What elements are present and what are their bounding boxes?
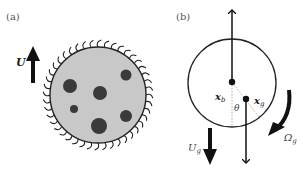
cilium [146, 87, 153, 91]
cilium [60, 131, 67, 135]
panel-b: (b) xb xg θ Ug Ωg [176, 10, 297, 165]
cilium [138, 121, 142, 128]
cilium [69, 47, 72, 55]
cilium [63, 51, 66, 58]
xb-label: xb [214, 91, 226, 104]
cilium [142, 73, 150, 75]
cilium [129, 131, 132, 138]
cilium [124, 50, 131, 54]
omega-label: Ωg [283, 132, 297, 145]
inclusion [91, 118, 107, 134]
panel-a-label: (a) [6, 11, 20, 22]
cilium [104, 41, 109, 47]
cilium [79, 141, 84, 147]
panel-b-label: (b) [176, 11, 190, 22]
cilium [97, 40, 101, 47]
cilium [146, 101, 152, 106]
cilium [50, 121, 58, 124]
cilium [142, 115, 147, 121]
inclusion [63, 79, 77, 93]
cilium [146, 94, 153, 98]
cilium [111, 43, 116, 49]
ug-label: Ug [188, 142, 201, 155]
cilium [53, 63, 57, 70]
xg-label: xg [253, 95, 265, 108]
cilium [66, 135, 73, 139]
cilium [118, 139, 120, 147]
diagram: (a) U (b) xb xg θ [0, 0, 308, 176]
cilium [46, 76, 52, 81]
cilium [90, 40, 94, 47]
inclusion [93, 86, 107, 100]
cilium [134, 60, 141, 63]
cilium [103, 143, 107, 150]
cilium [110, 141, 113, 149]
cilium [54, 126, 61, 129]
velocity-label: U [16, 56, 27, 69]
inclusion [70, 105, 78, 113]
cilium [83, 41, 86, 49]
panel-a: (a) U [6, 11, 153, 150]
cilium [47, 115, 55, 117]
cilium [76, 44, 78, 52]
cilium [124, 135, 127, 143]
cilium [118, 46, 124, 51]
cilium [134, 126, 138, 133]
cilium [44, 107, 52, 110]
velocity-arrow [26, 46, 40, 83]
cilium [58, 57, 62, 64]
cilium [144, 80, 152, 83]
theta-label: θ [234, 103, 240, 113]
inclusion [120, 110, 132, 122]
rotation-arrow [268, 90, 289, 136]
inclusion [121, 70, 132, 81]
cilium [95, 143, 99, 150]
cilium [144, 108, 150, 113]
cilium [43, 100, 50, 104]
sedimentation-velocity-arrow [203, 128, 217, 165]
cilium [44, 84, 50, 89]
cilium [72, 139, 78, 144]
cilium [43, 92, 50, 96]
cilium [87, 143, 92, 149]
gravity-center-point [243, 96, 249, 102]
buoyancy-center-point [229, 79, 235, 85]
cilium [129, 55, 136, 59]
cilium [138, 66, 146, 69]
cilium [49, 69, 54, 75]
